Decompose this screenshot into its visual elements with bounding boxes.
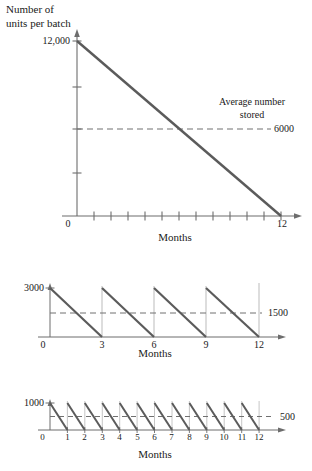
- chart3-y-tick-label-1000: 1000: [10, 397, 44, 409]
- chart1-x-axis-arrow: [294, 213, 302, 219]
- chart3-x-tick-label-12: 12: [251, 432, 267, 443]
- chart1-y-axis-title-line1: Number of: [6, 3, 54, 16]
- chart1-average-value-label: 6000: [274, 123, 294, 135]
- chart1-x-tick-label-0: 0: [61, 218, 75, 230]
- chart1-x-axis-title: Months: [140, 231, 210, 244]
- chart1-y-axis-title-line2: units per batch: [6, 17, 71, 30]
- chart3-x-axis-title: Months: [120, 448, 190, 461]
- chart3-x-tick-label-11: 11: [234, 432, 250, 443]
- chart-3-graphic: [38, 399, 286, 433]
- chart3-x-tick-label-4: 4: [113, 432, 126, 443]
- chart2-x-tick-label-3: 3: [95, 339, 109, 351]
- chart2-y-tick-label-3000: 3000: [10, 282, 44, 294]
- chart3-x-tick-label-6: 6: [148, 432, 161, 443]
- chart3-x-tick-label-9: 9: [200, 432, 213, 443]
- chart-2-graphic: [38, 283, 286, 340]
- chart3-x-tick-label-8: 8: [183, 432, 196, 443]
- figure-container: Number of units per batch 12,000 0 12 Mo…: [0, 0, 312, 471]
- chart2-x-tick-label-12: 12: [251, 339, 267, 351]
- chart2-average-value-label: 1500: [268, 307, 288, 319]
- chart1-y-tick-label-12000: 12,000: [28, 35, 70, 47]
- chart1-average-caption-line1: Average number: [200, 96, 304, 108]
- chart3-x-tick-label-2: 2: [78, 432, 91, 443]
- chart3-x-axis-arrow: [278, 427, 286, 432]
- chart2-x-axis-arrow: [278, 334, 286, 339]
- chart1-y-axis-arrow: [74, 29, 80, 37]
- chart3-x-tick-label-7: 7: [165, 432, 178, 443]
- chart-1-graphic: [62, 29, 302, 221]
- chart1-average-caption-line2: stored: [200, 109, 304, 121]
- chart3-x-tick-label-5: 5: [131, 432, 144, 443]
- chart3-x-tick-label-3: 3: [96, 432, 109, 443]
- chart2-x-tick-label-9: 9: [199, 339, 213, 351]
- chart2-x-axis-title: Months: [120, 347, 190, 360]
- chart3-x-tick-label-0: 0: [36, 432, 49, 443]
- chart2-x-tick-label-0: 0: [36, 339, 50, 351]
- chart3-x-tick-label-1: 1: [61, 432, 74, 443]
- chart3-average-value-label: 500: [280, 411, 295, 423]
- chart3-x-tick-label-10: 10: [216, 432, 232, 443]
- chart1-x-tick-label-12: 12: [274, 218, 290, 230]
